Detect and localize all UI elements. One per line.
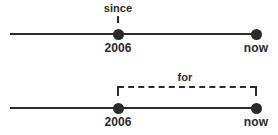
for-axis-line [10, 107, 257, 109]
since-point-2006 [113, 29, 124, 40]
timeline-for: for 2006 now [0, 62, 278, 135]
for-span-left-arm [117, 86, 119, 96]
for-keyword-label: for [178, 71, 193, 83]
since-axis-line [10, 33, 257, 35]
since-keyword-label: since [104, 2, 133, 14]
for-span-right-arm [255, 86, 257, 96]
for-label-now: now [244, 116, 268, 128]
timeline-since: since 2006 now [0, 0, 278, 62]
since-label-2006: 2006 [104, 42, 131, 54]
for-span-dashed-line [118, 86, 256, 88]
since-connector-tick [117, 16, 119, 23]
for-point-2006 [113, 103, 124, 114]
for-point-now [251, 103, 262, 114]
since-point-now [251, 29, 262, 40]
timeline-diagram: since 2006 now for 2006 now [0, 0, 278, 135]
since-label-now: now [244, 42, 268, 54]
for-label-2006: 2006 [104, 116, 131, 128]
